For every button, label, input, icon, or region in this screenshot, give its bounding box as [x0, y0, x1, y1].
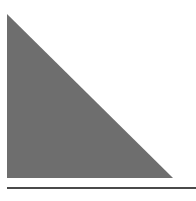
diagram-canvas — [0, 0, 196, 201]
